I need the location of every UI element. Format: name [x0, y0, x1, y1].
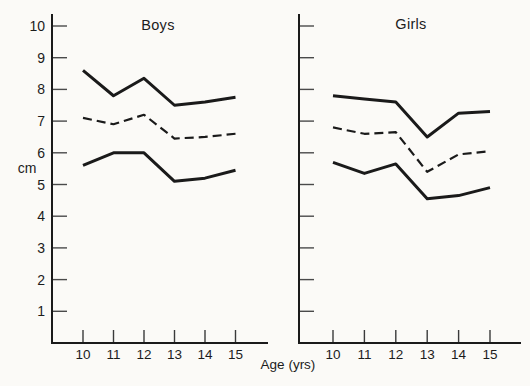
svg-text:13: 13 [167, 347, 182, 362]
svg-text:12: 12 [136, 347, 151, 362]
svg-text:11: 11 [106, 347, 120, 362]
girls-panel-title: Girls [363, 16, 459, 32]
boys-panel-title: Boys [110, 17, 206, 33]
svg-text:14: 14 [451, 347, 467, 362]
svg-text:5: 5 [37, 177, 45, 193]
svg-text:10: 10 [75, 347, 90, 362]
chart-canvas: 12345678910101112131415101112131415 [0, 0, 530, 386]
growth-velocity-figure: 12345678910101112131415101112131415 Boys… [0, 0, 530, 386]
svg-text:4: 4 [37, 208, 45, 224]
svg-text:1: 1 [37, 303, 45, 319]
svg-text:10: 10 [29, 18, 45, 34]
svg-text:6: 6 [37, 145, 45, 161]
svg-text:9: 9 [37, 50, 45, 66]
x-axis-label: Age (yrs) [240, 357, 336, 372]
svg-text:3: 3 [37, 240, 45, 256]
svg-text:8: 8 [37, 81, 45, 97]
svg-text:15: 15 [482, 347, 497, 362]
svg-text:14: 14 [197, 347, 213, 362]
svg-text:2: 2 [37, 272, 45, 288]
svg-text:7: 7 [37, 113, 45, 129]
svg-text:11: 11 [357, 347, 371, 362]
svg-text:13: 13 [420, 347, 435, 362]
y-axis-label: cm [9, 160, 45, 176]
svg-text:12: 12 [388, 347, 403, 362]
